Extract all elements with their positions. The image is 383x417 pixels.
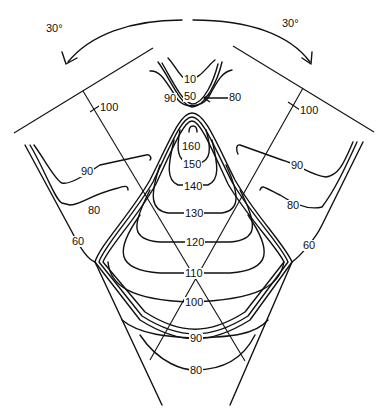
right-lobe-80-label: 80 <box>286 200 300 211</box>
contour-10-label: 10 <box>183 74 197 85</box>
contour-130-label: 130 <box>184 208 204 219</box>
left-rotation-label: 30° <box>46 22 63 34</box>
left-lobe-60-label: 60 <box>71 236 85 247</box>
pointer-arrow-icon <box>200 93 230 105</box>
contour-150-label: 150 <box>182 159 202 170</box>
contour-110-label: 110 <box>184 268 204 279</box>
contour-80-arrow-label: 80 <box>228 92 242 103</box>
contour-80-label: 80 <box>189 365 203 376</box>
right-axis-100-label: 100 <box>299 105 319 116</box>
right-lower-edge <box>230 262 292 405</box>
left-lobe-80-label: 80 <box>87 205 101 216</box>
left-field-edge <box>14 48 153 133</box>
contour-160-label: 160 <box>181 141 201 152</box>
right-lobe-90-label: 90 <box>290 160 304 171</box>
contour-90-top-label: 90 <box>163 93 177 104</box>
left-central-axis <box>83 91 245 361</box>
contour-90-label: 90 <box>189 333 203 344</box>
contour-160 <box>189 126 197 132</box>
left-lobe-90-label: 90 <box>80 166 94 177</box>
contour-100-label: 100 <box>184 297 204 308</box>
right-central-axis <box>150 88 303 360</box>
right-rotation-label: 30° <box>282 17 299 29</box>
left-axis-100-label: 100 <box>99 102 119 113</box>
right-lobe-60-label: 60 <box>302 240 316 251</box>
contour-50-label: 50 <box>183 91 197 102</box>
contour-120-label: 120 <box>185 237 205 248</box>
left-rotation-arrow <box>68 20 182 62</box>
contour-140-label: 140 <box>183 181 203 192</box>
